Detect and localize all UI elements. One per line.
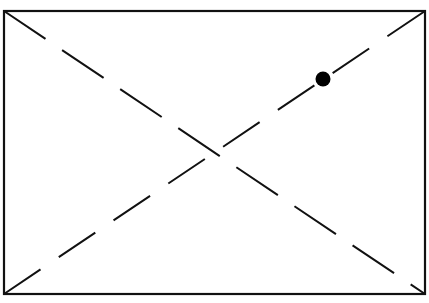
marked-point [316, 72, 331, 87]
rectangle-diagonals-diagram [0, 0, 429, 303]
